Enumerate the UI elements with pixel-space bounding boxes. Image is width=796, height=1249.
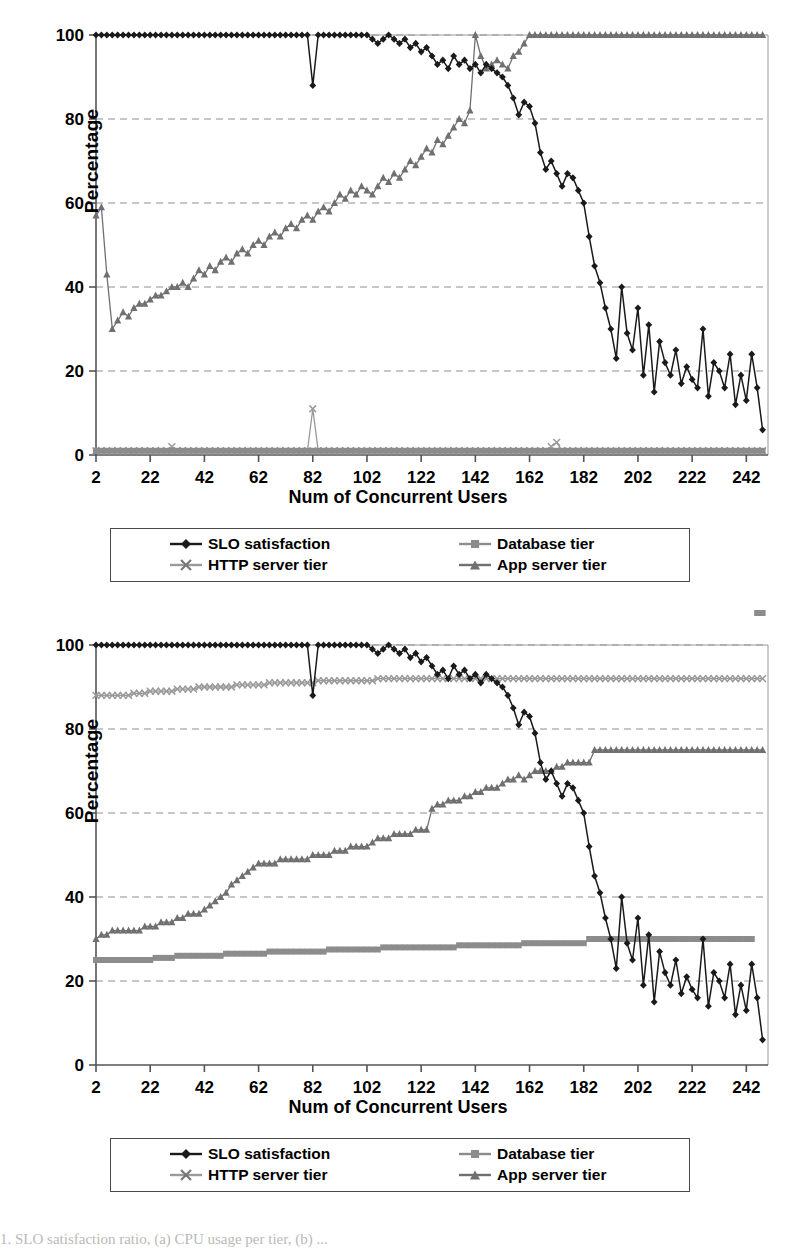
svg-text:62: 62	[249, 1078, 268, 1097]
triangle-marker-icon	[458, 558, 492, 572]
legend-item-database-tier[interactable]: Database tier	[400, 535, 689, 553]
legend-item-http-server-tier[interactable]: HTTP server tier	[111, 1166, 400, 1184]
square-marker-icon	[458, 1147, 492, 1161]
svg-text:22: 22	[141, 1078, 160, 1097]
legend-item-slo-satisfaction[interactable]: SLO satisfaction	[111, 535, 400, 553]
svg-text:100: 100	[56, 636, 84, 655]
chart-bottom-y-axis-label: Percentage	[81, 671, 103, 871]
chart-top-canvas: 0204060801002224262821021221421621822022…	[0, 0, 796, 500]
chart-top-figure: 0204060801002224262821021221421621822022…	[0, 0, 796, 600]
svg-text:162: 162	[515, 468, 543, 487]
chart-bottom-figure: 0204060801002224262821021221421621822022…	[0, 610, 796, 1210]
svg-text:202: 202	[624, 1078, 652, 1097]
chart-top-y-axis-label: Percentage	[81, 61, 103, 261]
svg-text:122: 122	[407, 468, 435, 487]
legend-label: SLO satisfaction	[208, 535, 330, 553]
chart-bottom-x-axis-label: Num of Concurrent Users	[0, 1097, 796, 1118]
square-marker-icon	[458, 537, 492, 551]
legend-label: HTTP server tier	[208, 556, 327, 574]
svg-text:242: 242	[732, 468, 760, 487]
svg-text:20: 20	[65, 972, 84, 991]
legend-item-app-server-tier[interactable]: App server tier	[400, 556, 689, 574]
legend-label: App server tier	[497, 1166, 606, 1184]
chart-top-legend: SLO satisfaction Database tier HTTP serv…	[110, 528, 690, 582]
svg-text:2: 2	[91, 1078, 100, 1097]
chart-bottom-legend: SLO satisfaction Database tier HTTP serv…	[110, 1138, 690, 1192]
legend-label: SLO satisfaction	[208, 1145, 330, 1163]
svg-text:82: 82	[303, 468, 322, 487]
svg-text:242: 242	[732, 1078, 760, 1097]
svg-text:40: 40	[65, 888, 84, 907]
chart-bottom-canvas: 0204060801002224262821021221421621822022…	[0, 610, 796, 1110]
svg-text:122: 122	[407, 1078, 435, 1097]
svg-text:42: 42	[195, 1078, 214, 1097]
svg-text:102: 102	[353, 468, 381, 487]
figure-caption: 1. SLO satisfaction ratio, (a) CPU usage…	[0, 1231, 796, 1249]
figure-page: 0204060801002224262821021221421621822022…	[0, 0, 796, 1249]
svg-text:40: 40	[65, 278, 84, 297]
legend-label: HTTP server tier	[208, 1166, 327, 1184]
svg-text:22: 22	[141, 468, 160, 487]
svg-text:0: 0	[75, 1056, 84, 1075]
legend-item-database-tier[interactable]: Database tier	[400, 1145, 689, 1163]
svg-text:182: 182	[570, 468, 598, 487]
legend-label: App server tier	[497, 556, 606, 574]
svg-text:0: 0	[75, 446, 84, 465]
diamond-marker-icon	[169, 1147, 203, 1161]
legend-item-http-server-tier[interactable]: HTTP server tier	[111, 556, 400, 574]
chart-top-x-axis-label: Num of Concurrent Users	[0, 487, 796, 508]
legend-label: Database tier	[497, 535, 594, 553]
svg-text:102: 102	[353, 1078, 381, 1097]
diamond-marker-icon	[169, 537, 203, 551]
svg-text:222: 222	[678, 1078, 706, 1097]
chart-bottom-plot-area: 0204060801002224262821021221421621822022…	[0, 610, 796, 1110]
svg-text:2: 2	[91, 468, 100, 487]
svg-text:182: 182	[570, 1078, 598, 1097]
svg-text:202: 202	[624, 468, 652, 487]
svg-text:20: 20	[65, 362, 84, 381]
svg-text:82: 82	[303, 1078, 322, 1097]
svg-text:100: 100	[56, 26, 84, 45]
svg-text:142: 142	[461, 468, 489, 487]
legend-item-app-server-tier[interactable]: App server tier	[400, 1166, 689, 1184]
svg-text:162: 162	[515, 1078, 543, 1097]
chart-top-plot-area: 0204060801002224262821021221421621822022…	[0, 0, 796, 500]
svg-text:222: 222	[678, 468, 706, 487]
svg-text:42: 42	[195, 468, 214, 487]
cross-marker-icon	[169, 1168, 203, 1182]
legend-label: Database tier	[497, 1145, 594, 1163]
cross-marker-icon	[169, 558, 203, 572]
triangle-marker-icon	[458, 1168, 492, 1182]
legend-item-slo-satisfaction[interactable]: SLO satisfaction	[111, 1145, 400, 1163]
svg-text:62: 62	[249, 468, 268, 487]
svg-text:142: 142	[461, 1078, 489, 1097]
